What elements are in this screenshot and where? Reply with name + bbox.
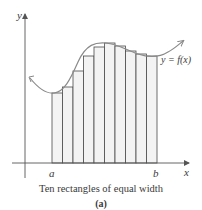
rectangle-3 (73, 71, 84, 163)
rectangle-2 (63, 87, 74, 163)
rectangle-5 (94, 47, 105, 163)
rectangles (52, 43, 157, 163)
rectangle-7 (115, 46, 126, 163)
interval-end-label: b (153, 167, 159, 179)
caption: Ten rectangles of equal width (39, 183, 164, 194)
riemann-sum-diagram: y x a b y = f(x) Ten rectangles of equal… (0, 0, 202, 210)
rectangle-6 (105, 43, 116, 163)
curve-label: y = f(x) (160, 54, 192, 66)
interval-start-label: a (49, 167, 55, 179)
rectangle-1 (52, 93, 63, 163)
subfigure-label: (a) (95, 198, 107, 210)
y-axis-label: y (16, 9, 22, 21)
rectangle-4 (84, 56, 95, 163)
rectangle-9 (136, 54, 147, 163)
rectangle-10 (147, 56, 158, 163)
rectangle-8 (126, 51, 137, 163)
x-axis-label: x (183, 166, 189, 178)
